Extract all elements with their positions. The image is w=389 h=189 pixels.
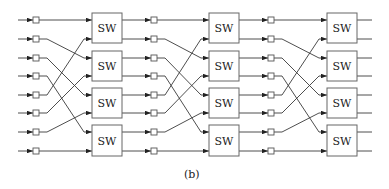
figure-caption: (b) [184,168,200,181]
switch-label: SW [215,22,235,35]
shuffle-link [157,39,209,58]
shuffle-link [39,39,92,95]
buffer-box [151,17,157,23]
switch-label: SW [215,135,235,148]
switch-label: SW [98,22,118,35]
shuffle-link [39,76,92,132]
wires-layer [18,20,372,151]
shuffle-link [274,39,327,58]
buffer-box [33,92,39,98]
buffer-box [151,129,157,135]
buffer-box [151,110,157,116]
buffer-box [151,55,157,61]
buffer-box [33,129,39,135]
buffer-box [33,73,39,79]
buffer-box [151,73,157,79]
shuffle-link [157,76,209,132]
shuffle-exchange-network-diagram: SWSWSWSWSWSWSWSWSWSWSWSW [0,0,389,189]
buffer-box [268,148,274,154]
shuffle-link [274,76,327,132]
switch-label: SW [333,22,353,35]
switch-label: SW [98,135,118,148]
switch-label: SW [98,97,118,110]
switch-label: SW [333,135,353,148]
buffer-box [268,129,274,135]
buffer-box [33,36,39,42]
buffer-box [151,92,157,98]
shuffle-link [39,39,92,58]
buffer-box [33,55,39,61]
shuffle-link [157,113,209,132]
switch-label: SW [333,60,353,73]
buffer-box [151,36,157,42]
shuffle-link [157,39,209,95]
buffer-box [268,55,274,61]
buffer-box [268,73,274,79]
buffer-box [268,17,274,23]
buffer-box [33,110,39,116]
shuffle-link [274,113,327,132]
buffer-box [33,148,39,154]
buffer-box [33,17,39,23]
buffer-box [151,148,157,154]
buffer-box [268,110,274,116]
switch-label: SW [333,97,353,110]
switch-label: SW [215,60,235,73]
buffer-box [268,92,274,98]
shuffle-link [274,39,327,95]
shuffle-link [39,113,92,132]
switch-label: SW [215,97,235,110]
switch-label: SW [98,60,118,73]
buffer-box [268,36,274,42]
